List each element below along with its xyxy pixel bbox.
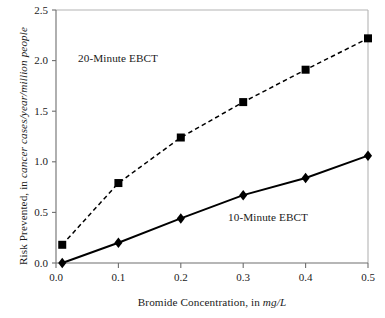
series-line: [62, 38, 368, 244]
marker-diamond: [364, 151, 372, 161]
data-series-group: [58, 34, 372, 268]
marker-square: [239, 98, 247, 106]
marker-diamond: [114, 238, 122, 248]
marker-square: [58, 241, 66, 249]
marker-diamond: [239, 190, 247, 200]
plot-area: [0, 0, 385, 318]
marker-square: [302, 66, 310, 74]
series-10-minute-ebct: [58, 151, 372, 269]
plot-frame: [56, 10, 368, 263]
series-line: [62, 156, 368, 263]
marker-diamond: [177, 213, 185, 223]
marker-square: [114, 179, 122, 187]
marker-diamond: [302, 173, 310, 183]
marker-square: [177, 134, 185, 142]
marker-diamond: [58, 258, 66, 268]
chart-figure: Risk Prevented, in cancer cases/year/mil…: [0, 0, 385, 318]
annotation-10-minute-ebct: 10-Minute EBCT: [228, 211, 308, 223]
annotation-20-minute-ebct: 20-Minute EBCT: [78, 52, 158, 64]
axis-ticks: [52, 10, 368, 268]
series-20-minute-ebct: [58, 34, 372, 248]
marker-square: [364, 34, 372, 42]
